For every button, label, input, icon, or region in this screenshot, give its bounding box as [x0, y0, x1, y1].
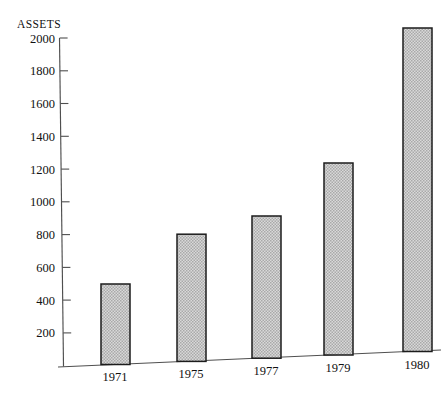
- y-axis-tick-label: 1800: [30, 64, 55, 78]
- x-axis-tick-label-1980: 1980: [405, 358, 430, 372]
- y-axis-tick-label: 1400: [30, 130, 55, 144]
- y-axis-tick-label: 400: [36, 294, 55, 308]
- y-axis-tick-label: 1000: [30, 195, 55, 209]
- y-axis-tick-label: 800: [36, 228, 55, 242]
- bar-1975[interactable]: [177, 234, 206, 361]
- x-axis-tick-label-1971: 1971: [103, 370, 128, 384]
- assets-bar-chart: ASSETS 2000 1800 1600 1400 1200 1000 800…: [0, 0, 447, 395]
- y-axis-tick-label: 600: [36, 261, 55, 275]
- y-axis-tick-label: 200: [36, 326, 55, 340]
- bar-1979[interactable]: [324, 163, 353, 355]
- x-axis-tick-label-1979: 1979: [326, 361, 351, 375]
- y-axis-tick-label: 1600: [30, 97, 55, 111]
- bar-1971[interactable]: [101, 284, 130, 365]
- bar-1977[interactable]: [252, 216, 281, 358]
- x-axis-tick-label-1975: 1975: [179, 367, 204, 381]
- page-title: ASSETS: [17, 18, 61, 30]
- chart-canvas: ASSETS 2000 1800 1600 1400 1200 1000 800…: [0, 0, 447, 395]
- x-axis-tick-label-1977: 1977: [254, 364, 279, 378]
- y-axis-tick-label: 2000: [30, 32, 55, 46]
- bar-1980[interactable]: [403, 28, 432, 352]
- y-axis-tick-label: 1200: [30, 163, 55, 177]
